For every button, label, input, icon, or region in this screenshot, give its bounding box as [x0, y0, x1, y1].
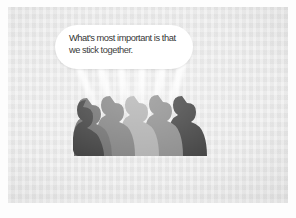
speech-bubble-text: What's most important is that we stick t…	[69, 32, 189, 57]
paper-panel: What's most important is that we stick t…	[8, 7, 288, 203]
illustration-canvas: What's most important is that we stick t…	[0, 0, 296, 218]
speech-bubble: What's most important is that we stick t…	[55, 25, 193, 69]
